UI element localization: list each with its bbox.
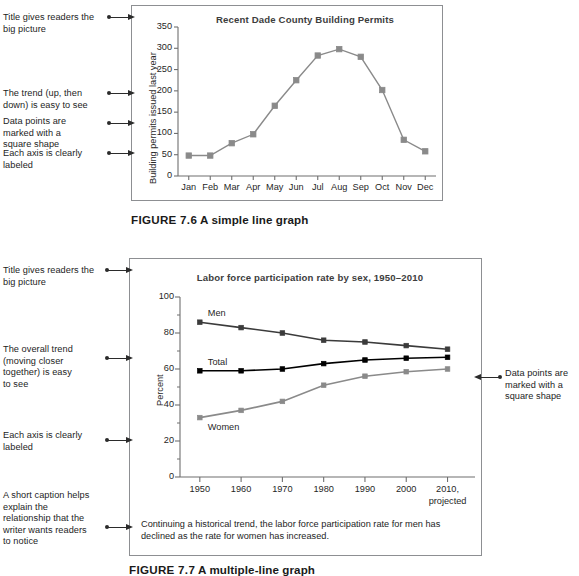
chart1-ytick-label: 150 [136, 106, 172, 116]
chart2-xtick-label: 1960 [219, 484, 263, 494]
chart1-ytick-label: 100 [136, 127, 172, 137]
figure1-caption: FIGURE 7.6 A simple line graph [131, 213, 308, 226]
chart2-ytick-label: 60 [136, 363, 174, 373]
figure1-annotation-3: Each axis is clearly labeled [3, 148, 103, 171]
chart1-xtick-label: Dec [409, 182, 441, 192]
figure2-annotation-0: Title gives readers the big picture [3, 265, 103, 288]
figure1-annotation-2: Data points are marked with a square sha… [3, 116, 85, 151]
figure1-caption-number: FIGURE 7.6 [131, 213, 197, 226]
chart2-xtick-label: 1980 [302, 484, 346, 494]
chart2-series-label-men: Men [208, 308, 226, 318]
figure2-annotation-right-0: Data points are marked with a square sha… [505, 368, 579, 403]
arrow-shaft [480, 377, 500, 378]
chart1-ytick-label: 300 [136, 42, 172, 52]
chart2-ytick-label: 40 [136, 399, 174, 409]
figure2-inner-caption: Continuing a historical trend, the labor… [141, 518, 457, 542]
figure2-annotation-3: A short caption helps explain the relati… [3, 490, 91, 548]
chart2-xtick-label: 1970 [260, 484, 304, 494]
chart1-ytick-label: 50 [136, 149, 172, 159]
chart2-series-label-total: Total [208, 357, 227, 367]
arrow-shaft [109, 17, 129, 18]
chart2-ytick-label: 20 [136, 435, 174, 445]
arrow-shaft [107, 527, 127, 528]
figure1-annotation-0: Title gives readers the big picture [3, 12, 103, 35]
chart2-ytick-label: 100 [136, 291, 174, 301]
chart1-ytick-label: 350 [136, 21, 172, 31]
figure1-caption-text: A simple line graph [200, 213, 308, 226]
figure2-caption-text: A multiple-line graph [198, 563, 315, 576]
arrow-shaft [107, 358, 127, 359]
chart2-xtick-label: 1950 [178, 484, 222, 494]
chart1-ytick-label: 250 [136, 64, 172, 74]
arrow-shaft [109, 93, 129, 94]
chart1-ytick-label: 0 [136, 170, 172, 180]
chart2-ytick-label: 80 [136, 327, 174, 337]
chart2-xtick-sublabel: projected [426, 496, 470, 506]
chart1-plot [131, 5, 443, 201]
arrow-shaft [107, 270, 127, 271]
figure2-caption: FIGURE 7.7 A multiple-line graph [129, 563, 315, 576]
chart2-series-label-women: Women [208, 422, 240, 432]
figure1-annotation-1: The trend (up, then down) is easy to see [3, 88, 103, 111]
chart2-plot [129, 258, 482, 556]
arrow-shaft [109, 123, 129, 124]
figure2-caption-number: FIGURE 7.7 [129, 563, 195, 576]
figure2-annotation-1: The overall trend (moving closer togethe… [3, 344, 81, 390]
chart2-xtick-label: 2010, [426, 484, 470, 494]
arrow-shaft [109, 153, 129, 154]
chart2-xtick-label: 1990 [343, 484, 387, 494]
chart2-xtick-label: 2000 [384, 484, 428, 494]
chart2-ytick-label: 0 [136, 471, 174, 481]
arrow-shaft [107, 440, 127, 441]
figure2-annotation-2: Each axis is clearly labeled [3, 430, 103, 453]
chart1-ytick-label: 200 [136, 85, 172, 95]
